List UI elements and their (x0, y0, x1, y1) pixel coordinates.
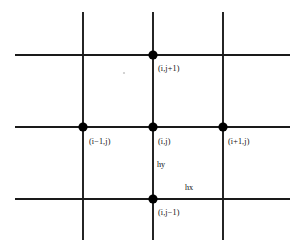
node-label-west: (i−1,j) (89, 138, 110, 146)
node-label-north: (i,j+1) (158, 65, 179, 73)
spacing-label-hx: hx (185, 184, 193, 192)
node-label-center: (i,j) (158, 138, 171, 146)
node-dot-east (218, 122, 227, 131)
node-label-east: (i+1,j) (228, 138, 249, 146)
node-dot-north (148, 50, 157, 59)
scan-artifact-speck (123, 72, 125, 74)
stencil-diagram: (i,j+1) (i−1,j) (i,j) (i+1,j) (i,j−1) hy… (0, 0, 304, 252)
spacing-label-hy: hy (157, 161, 165, 169)
node-dot-south (148, 194, 157, 203)
node-dot-center (148, 122, 157, 131)
node-dot-west (78, 122, 87, 131)
node-label-south: (i,j−1) (158, 209, 179, 217)
stencil-canvas (0, 0, 304, 252)
